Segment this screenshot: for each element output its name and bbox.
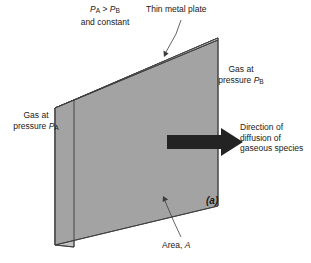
pressure-relation-label: PA > PB and constant xyxy=(62,4,148,27)
area-symbol: A xyxy=(185,240,191,250)
area-label: Area, A xyxy=(162,240,218,251)
diffusion-direction-line3: gaseous species xyxy=(240,143,311,154)
pressure-relation-line2: and constant xyxy=(62,17,148,28)
subscript-b: B xyxy=(116,7,120,14)
gas-b-line2: pressure PB xyxy=(198,75,284,88)
gas-b-line1: Gas at xyxy=(198,64,284,75)
gas-a-subscript: A xyxy=(54,124,58,131)
diffusion-direction-label: Direction of diffusion of gaseous specie… xyxy=(240,122,311,154)
pressure-relation-line1: PA > PB xyxy=(62,4,148,17)
diffusion-direction-line2: diffusion of xyxy=(240,133,311,144)
gas-b-pressure-word: pressure xyxy=(218,75,253,85)
gas-b-subscript: B xyxy=(259,78,263,85)
gas-pressure-b-label: Gas at pressure PB xyxy=(198,64,284,87)
diffusion-direction-line1: Direction of xyxy=(240,122,311,133)
gas-a-line1: Gas at xyxy=(2,110,70,121)
thin-metal-plate-leader-line xyxy=(166,20,181,52)
gas-a-pressure-word: pressure xyxy=(13,121,48,131)
figure-gas-diffusion-diagram: PA > PB and constant Thin metal plate Ga… xyxy=(0,0,311,263)
area-word: Area, xyxy=(162,240,185,250)
gas-a-line2: pressure PA xyxy=(2,121,70,134)
greater-than-operator: > xyxy=(100,4,110,14)
gas-pressure-a-label: Gas at pressure PA xyxy=(2,110,70,133)
figure-letter-label: (a) xyxy=(206,196,228,207)
thin-metal-plate-label: Thin metal plate xyxy=(146,4,242,15)
